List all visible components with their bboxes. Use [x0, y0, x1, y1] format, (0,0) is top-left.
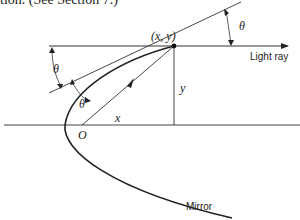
point-label: (x, y) [151, 29, 176, 43]
x-label: x [114, 111, 121, 125]
theta-inner-label: θ [79, 97, 85, 111]
parabolic-mirror-diagram: (x, y) Light ray Mirror O x y θ θ θ [0, 0, 300, 220]
theta-inner-arrow-up-icon [70, 79, 75, 85]
mirror-curve [65, 46, 232, 218]
theta-left-label: θ [53, 62, 59, 76]
theta-right-arc [226, 10, 231, 44]
mirror-label: Mirror [186, 201, 213, 212]
theta-right-label: θ [239, 19, 245, 33]
point-xy [172, 44, 177, 49]
light-ray-label: Light ray [250, 51, 288, 62]
theta-inner-arrow-right-icon [85, 97, 91, 103]
origin-label: O [78, 128, 87, 142]
focal-ray-arrow-icon [127, 78, 134, 88]
theta-right-arrow-down-icon [228, 40, 234, 46]
theta-left-arrow-up-icon [49, 47, 55, 53]
y-label: y [179, 81, 186, 95]
tangent-line [49, 2, 241, 93]
